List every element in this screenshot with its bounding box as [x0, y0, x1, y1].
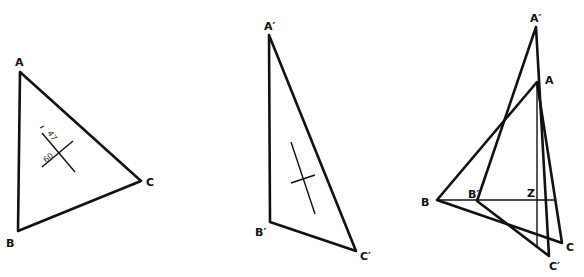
dimension-60: 60 — [42, 151, 56, 164]
figure-original-triangle: 47 60 A B C — [6, 56, 154, 250]
triangle-abc — [18, 72, 141, 231]
label-c: C — [146, 176, 154, 189]
overlay-label-c-prime: C′ — [549, 260, 560, 273]
triangle-a-prime-b-prime-c-prime — [269, 35, 356, 251]
label-a-prime: A′ — [264, 20, 276, 33]
label-b: B — [6, 237, 14, 250]
label-a: A — [15, 56, 24, 69]
diagram-canvas: 47 60 A B C A′ B′ C′ A′ A B B′ Z C C′ — [0, 0, 584, 277]
overlay-label-a: A — [545, 74, 554, 87]
overlay-label-a-prime: A′ — [530, 12, 542, 25]
overlay-label-b: B — [421, 196, 429, 209]
figure-overlay: A′ A B B′ Z C C′ — [421, 12, 574, 273]
dimension-47: 47 — [45, 129, 58, 143]
axis-line-long — [291, 142, 315, 214]
overlay-label-z: Z — [527, 187, 535, 200]
label-b-prime: B′ — [255, 226, 266, 239]
overlay-label-b-prime: B′ — [468, 188, 479, 201]
figure-transformed-triangle: A′ B′ C′ — [255, 20, 371, 263]
tick-mark — [40, 126, 44, 128]
overlay-label-c: C — [566, 241, 574, 254]
label-c-prime: C′ — [360, 250, 371, 263]
